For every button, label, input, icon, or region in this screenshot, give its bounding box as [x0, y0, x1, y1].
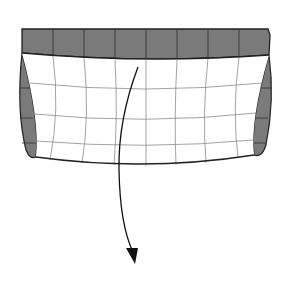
grid-surface	[22, 53, 269, 166]
diagram-canvas	[0, 0, 287, 282]
